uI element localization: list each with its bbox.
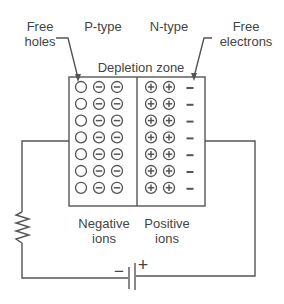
label-depletion-zone: Depletion zone — [86, 60, 196, 75]
negative-ion-icon — [112, 98, 123, 109]
positive-ion-icon — [164, 149, 175, 160]
negative-ion-icon — [94, 98, 105, 109]
resistor-icon — [16, 212, 29, 243]
label-negative-ions-line1: Negative — [72, 216, 136, 231]
negative-ion-icon — [94, 182, 105, 193]
battery-plus-sign: + — [136, 258, 150, 273]
positive-ion-icon — [146, 166, 157, 177]
hole-icon — [76, 182, 87, 193]
hole-icon — [76, 149, 87, 160]
positive-ion-icon — [164, 98, 175, 109]
label-n-type: N-type — [146, 19, 192, 34]
wire-right — [136, 141, 255, 276]
label-p-type: P-type — [80, 19, 126, 34]
positive-ion-icon — [146, 182, 157, 193]
positive-ion-icon — [164, 182, 175, 193]
label-negative-ions-line2: ions — [72, 231, 136, 246]
free-holes-arrowhead — [75, 74, 81, 82]
negative-ion-icon — [94, 115, 105, 126]
label-positive-ions: Positive ions — [136, 216, 198, 246]
positive-ion-icon — [146, 132, 157, 143]
label-free-holes-line2: holes — [18, 34, 62, 49]
label-positive-ions-line2: ions — [136, 231, 198, 246]
label-free-holes: Free holes — [18, 19, 62, 49]
positive-ion-icon — [164, 166, 175, 177]
negative-ion-icon — [112, 149, 123, 160]
hole-icon — [76, 98, 87, 109]
negative-ion-icon — [112, 182, 123, 193]
hole-icon — [76, 115, 87, 126]
positive-ion-icon — [146, 115, 157, 126]
label-free-electrons-line2: electrons — [214, 34, 278, 49]
positive-ion-icon — [164, 82, 175, 93]
hole-icon — [76, 166, 87, 177]
label-positive-ions-line1: Positive — [136, 216, 198, 231]
battery-minus-sign: − — [112, 264, 126, 279]
negative-ion-icon — [112, 166, 123, 177]
label-free-electrons: Free electrons — [214, 19, 278, 49]
positive-ion-icon — [146, 98, 157, 109]
negative-ion-icon — [94, 149, 105, 160]
negative-ion-icon — [112, 115, 123, 126]
positive-ion-icon — [146, 82, 157, 93]
negative-ion-icon — [94, 132, 105, 143]
particles-grid — [76, 82, 194, 194]
negative-ion-icon — [94, 82, 105, 93]
positive-ion-icon — [146, 149, 157, 160]
negative-ion-icon — [94, 166, 105, 177]
positive-ion-icon — [164, 115, 175, 126]
wire-left-top — [22, 141, 69, 212]
label-free-electrons-line1: Free — [214, 19, 278, 34]
negative-ion-icon — [112, 82, 123, 93]
positive-ion-icon — [164, 132, 175, 143]
label-negative-ions: Negative ions — [72, 216, 136, 246]
hole-icon — [76, 82, 87, 93]
hole-icon — [76, 132, 87, 143]
label-free-holes-line1: Free — [18, 19, 62, 34]
negative-ion-icon — [112, 132, 123, 143]
free-electrons-pointer — [194, 38, 212, 77]
